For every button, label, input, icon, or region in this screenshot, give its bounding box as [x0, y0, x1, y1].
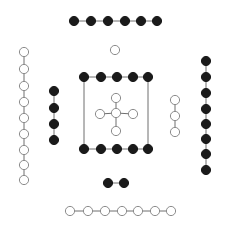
- graph-node-open[interactable]: [19, 64, 28, 73]
- graph-node-open[interactable]: [150, 206, 159, 215]
- diagram-canvas: [0, 0, 230, 226]
- graph-node-open[interactable]: [19, 160, 28, 169]
- graph-node-open[interactable]: [100, 206, 109, 215]
- graph-node-filled[interactable]: [201, 72, 210, 81]
- graph-node-open[interactable]: [170, 95, 179, 104]
- graph-node-filled[interactable]: [49, 86, 58, 95]
- graph-node-open[interactable]: [19, 129, 28, 138]
- graph-node-open[interactable]: [133, 206, 142, 215]
- graph-node-filled[interactable]: [201, 56, 210, 65]
- graph-node-filled[interactable]: [49, 135, 58, 144]
- graph-node-filled[interactable]: [201, 165, 210, 174]
- graph-node-filled[interactable]: [201, 149, 210, 158]
- graph-node-open[interactable]: [19, 145, 28, 154]
- graph-node-open[interactable]: [170, 111, 179, 120]
- graph-node-open[interactable]: [110, 45, 119, 54]
- graph-node-filled[interactable]: [128, 72, 137, 81]
- graph-node-filled[interactable]: [103, 16, 112, 25]
- graph-node-filled[interactable]: [143, 144, 152, 153]
- graph-node-filled[interactable]: [201, 134, 210, 143]
- graph-node-filled[interactable]: [201, 119, 210, 128]
- graph-node-filled[interactable]: [86, 16, 95, 25]
- node-group-left-open-chain: [19, 47, 28, 184]
- graph-node-filled[interactable]: [49, 103, 58, 112]
- nodes-layer: [19, 16, 210, 215]
- graph-node-open[interactable]: [111, 93, 120, 102]
- graph-node-filled[interactable]: [120, 16, 129, 25]
- graph-node-open[interactable]: [83, 206, 92, 215]
- graph-node-open[interactable]: [19, 47, 28, 56]
- graph-node-filled[interactable]: [79, 72, 88, 81]
- graph-node-filled[interactable]: [143, 72, 152, 81]
- graph-node-filled[interactable]: [119, 178, 128, 187]
- graph-node-filled[interactable]: [96, 144, 105, 153]
- graph-node-filled[interactable]: [49, 119, 58, 128]
- graph-node-open[interactable]: [65, 206, 74, 215]
- graph-node-filled[interactable]: [136, 16, 145, 25]
- graph-node-filled[interactable]: [128, 144, 137, 153]
- graph-node-filled[interactable]: [112, 144, 121, 153]
- graph-node-filled[interactable]: [79, 144, 88, 153]
- graph-node-open[interactable]: [170, 127, 179, 136]
- graph-node-filled[interactable]: [201, 104, 210, 113]
- graph-node-open[interactable]: [95, 109, 104, 118]
- node-group-right-open-chain: [170, 95, 179, 136]
- node-link-graph: [0, 0, 230, 226]
- graph-node-open[interactable]: [19, 81, 28, 90]
- graph-node-open[interactable]: [128, 109, 137, 118]
- graph-node-open[interactable]: [19, 97, 28, 106]
- graph-node-open[interactable]: [111, 126, 120, 135]
- node-group-lone-open-node: [110, 45, 119, 54]
- graph-node-filled[interactable]: [69, 16, 78, 25]
- graph-node-open[interactable]: [117, 206, 126, 215]
- graph-node-open[interactable]: [19, 113, 28, 122]
- node-group-center-plus-cluster: [95, 93, 137, 135]
- graph-node-filled[interactable]: [96, 72, 105, 81]
- graph-node-open[interactable]: [19, 175, 28, 184]
- graph-node-filled[interactable]: [201, 88, 210, 97]
- graph-node-open[interactable]: [111, 108, 120, 117]
- graph-node-filled[interactable]: [152, 16, 161, 25]
- graph-node-filled[interactable]: [112, 72, 121, 81]
- graph-node-open[interactable]: [166, 206, 175, 215]
- graph-node-filled[interactable]: [103, 178, 112, 187]
